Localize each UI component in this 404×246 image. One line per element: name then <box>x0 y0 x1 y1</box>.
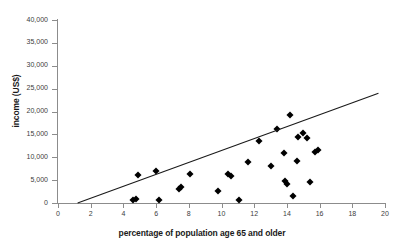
x-tick-mark <box>58 203 59 208</box>
y-tick-mark <box>52 203 57 204</box>
x-tick-mark <box>352 203 353 208</box>
data-point <box>133 195 140 202</box>
data-point <box>306 179 313 186</box>
y-tick-mark <box>52 43 57 44</box>
y-tick-mark <box>52 134 57 135</box>
x-tick-label: 18 <box>342 210 362 217</box>
y-tick-mark <box>52 89 57 90</box>
y-tick-label: 30,000 <box>4 61 48 68</box>
y-tick-mark <box>52 180 57 181</box>
data-point <box>287 111 294 118</box>
data-point <box>244 158 251 165</box>
x-tick-mark <box>320 203 321 208</box>
x-axis-title: percentage of population age 65 and olde… <box>0 228 404 238</box>
data-point <box>153 168 160 175</box>
data-point <box>280 149 287 156</box>
x-tick-mark <box>189 203 190 208</box>
y-tick-mark <box>52 112 57 113</box>
y-tick-label: 25,000 <box>4 84 48 91</box>
y-axis-line <box>57 19 58 204</box>
data-point <box>267 163 274 170</box>
x-tick-label: 4 <box>113 210 133 217</box>
y-tick-label: 0 <box>4 199 48 206</box>
data-point <box>290 192 297 199</box>
y-tick-label: 35,000 <box>4 38 48 45</box>
x-tick-mark <box>287 203 288 208</box>
x-tick-label: 2 <box>81 210 101 217</box>
data-point <box>256 138 263 145</box>
data-point <box>215 188 222 195</box>
data-point <box>187 171 194 178</box>
y-tick-mark <box>52 157 57 158</box>
data-point <box>293 158 300 165</box>
y-axis-title: income (US$) <box>11 41 21 161</box>
y-tick-label: 20,000 <box>4 107 48 114</box>
x-tick-mark <box>385 203 386 208</box>
x-tick-label: 0 <box>48 210 68 217</box>
scatter-chart: income (US$) percentage of population ag… <box>0 0 404 246</box>
y-tick-label: 10,000 <box>4 153 48 160</box>
data-point <box>274 126 281 133</box>
x-tick-label: 20 <box>375 210 395 217</box>
x-tick-mark <box>222 203 223 208</box>
x-tick-label: 14 <box>277 210 297 217</box>
x-tick-label: 8 <box>179 210 199 217</box>
y-tick-mark <box>52 20 57 21</box>
x-tick-label: 10 <box>212 210 232 217</box>
x-tick-label: 6 <box>146 210 166 217</box>
x-tick-mark <box>254 203 255 208</box>
data-point <box>283 181 290 188</box>
data-point <box>303 135 310 142</box>
y-tick-label: 40,000 <box>4 16 48 23</box>
data-point <box>135 171 142 178</box>
x-tick-mark <box>91 203 92 208</box>
x-tick-label: 16 <box>310 210 330 217</box>
data-point <box>228 173 235 180</box>
x-tick-mark <box>123 203 124 208</box>
y-tick-mark <box>52 66 57 67</box>
y-tick-label: 15,000 <box>4 130 48 137</box>
x-tick-mark <box>156 203 157 208</box>
x-tick-label: 12 <box>244 210 264 217</box>
y-tick-label: 5,000 <box>4 176 48 183</box>
